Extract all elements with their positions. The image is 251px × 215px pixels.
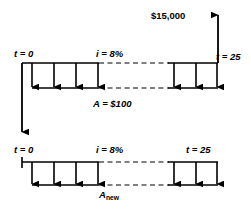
bottom-timeline-group xyxy=(22,157,218,185)
bottom-interest-rate-label: i = 8% xyxy=(96,145,123,155)
bottom-start-time-label: t = 0 xyxy=(14,145,33,155)
bottom-annuity-subscript: new xyxy=(106,194,119,201)
bottom-annuity-label: Anew xyxy=(99,190,119,200)
cash-flow-diagram: $15,000 t = 0 i = 8% t = 25 A = $100 t =… xyxy=(0,0,251,215)
top-interest-rate-label: i = 8% xyxy=(96,49,123,59)
bottom-annuity-base: A xyxy=(99,189,106,200)
top-annuity-label: A = $100 xyxy=(93,99,131,109)
bottom-end-time-label: t = 25 xyxy=(186,145,211,155)
future-amount-label: $15,000 xyxy=(151,11,185,21)
top-end-time-label: t = 25 xyxy=(216,52,241,62)
top-start-time-label: t = 0 xyxy=(14,49,33,59)
